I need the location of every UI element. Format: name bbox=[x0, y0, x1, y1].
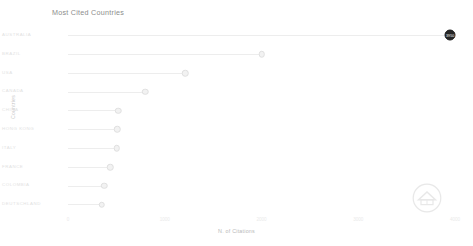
category-label: USA bbox=[2, 70, 58, 75]
lollipop-stem bbox=[68, 54, 262, 55]
lollipop-stem bbox=[68, 129, 117, 130]
lollipop-marker-highlighted[interactable]: 3950 bbox=[445, 30, 456, 41]
lollipop-stem bbox=[68, 35, 450, 36]
x-axis-tick-label: 0 bbox=[67, 217, 70, 222]
lollipop-marker[interactable] bbox=[182, 70, 189, 77]
lollipop-marker[interactable] bbox=[107, 164, 114, 171]
category-label: DEUTSCHLAND bbox=[2, 201, 58, 206]
lollipop-stem bbox=[68, 186, 104, 187]
category-label: AUSTRALIA bbox=[2, 32, 58, 37]
lollipop-marker[interactable] bbox=[258, 51, 265, 58]
lollipop-marker[interactable] bbox=[115, 107, 122, 114]
lollipop-marker[interactable] bbox=[101, 183, 108, 190]
category-label: HONG KONG bbox=[2, 126, 58, 131]
category-label: FRANCE bbox=[2, 164, 58, 169]
category-label: CHINA bbox=[2, 107, 58, 112]
lollipop-marker[interactable] bbox=[142, 89, 149, 96]
lollipop-marker[interactable] bbox=[99, 201, 106, 208]
lollipop-marker[interactable] bbox=[114, 145, 121, 152]
x-axis-label: N. of Citations bbox=[0, 228, 473, 234]
marker-value-label: 3950 bbox=[446, 33, 454, 37]
category-label: COLOMBIA bbox=[2, 182, 58, 187]
x-axis-tick-label: 2000 bbox=[256, 217, 266, 222]
lollipop-marker[interactable] bbox=[114, 126, 121, 133]
category-label: BRAZIL bbox=[2, 51, 58, 56]
lollipop-stem bbox=[68, 73, 185, 74]
x-axis-tick-label: 4000 bbox=[450, 217, 460, 222]
chart-container: Most Cited Countries Countries AUSTRALIA… bbox=[0, 0, 473, 246]
plot-area: AUSTRALIA3950BRAZILUSACANADACHINAHONG KO… bbox=[68, 26, 455, 214]
lollipop-stem bbox=[68, 148, 117, 149]
lollipop-stem bbox=[68, 204, 102, 205]
lollipop-stem bbox=[68, 92, 145, 93]
category-label: CANADA bbox=[2, 88, 58, 93]
category-label: ITALY bbox=[2, 145, 58, 150]
lollipop-stem bbox=[68, 167, 110, 168]
x-axis-tick-label: 1000 bbox=[160, 217, 170, 222]
circular-logo-watermark-icon bbox=[412, 183, 442, 213]
x-axis-tick-label: 3000 bbox=[353, 217, 363, 222]
lollipop-stem bbox=[68, 110, 118, 111]
chart-title: Most Cited Countries bbox=[52, 8, 124, 17]
